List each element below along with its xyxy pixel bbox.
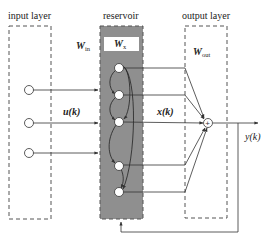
reservoir-node-1 bbox=[115, 64, 124, 73]
reservoir-node-3 bbox=[115, 118, 124, 127]
x-k-label: x(k) bbox=[156, 106, 174, 118]
reservoir-node-2 bbox=[115, 91, 124, 100]
input-node-1 bbox=[25, 86, 34, 95]
u-k-label: u(k) bbox=[63, 106, 80, 118]
w-out-label: Wout bbox=[193, 46, 210, 58]
summation-symbol: + bbox=[205, 119, 210, 128]
y-k-label: y(k) bbox=[244, 131, 261, 143]
reservoir-node-4 bbox=[115, 162, 124, 171]
esn-diagram: input layer reservoir output layer Win W… bbox=[0, 0, 273, 241]
reservoir-label: reservoir bbox=[103, 10, 139, 21]
w-in-label: Win bbox=[76, 40, 91, 52]
reservoir-node-5 bbox=[115, 188, 124, 197]
input-node-3 bbox=[25, 149, 34, 158]
input-node-2 bbox=[25, 119, 34, 128]
input-layer-label: input layer bbox=[8, 10, 52, 21]
output-layer-label: output layer bbox=[182, 10, 231, 21]
